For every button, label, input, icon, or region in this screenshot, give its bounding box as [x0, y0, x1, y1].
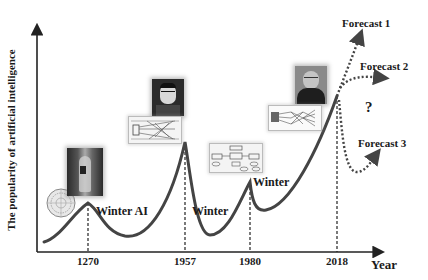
- neural-circuit-diagram: [128, 116, 182, 144]
- winter-label-1957: Winter: [192, 205, 228, 217]
- forecast-2-label: Forecast 2: [360, 61, 408, 72]
- expert-system-flowchart: [209, 143, 263, 173]
- tick-1957: 1957: [174, 256, 196, 267]
- y-axis-label: The popularity of artificial intelligenc…: [6, 49, 17, 230]
- forecast-lines: [337, 33, 385, 172]
- forecast-2-line: [340, 77, 385, 88]
- question-mark: ?: [365, 100, 373, 115]
- ancient-figure-photo: [67, 148, 103, 196]
- forecast-3-label: Forecast 3: [358, 138, 406, 149]
- scientist-portrait-1957-photo: [152, 79, 184, 116]
- tick-2018: 2018: [326, 256, 348, 267]
- forecast-1-label: Forecast 1: [342, 18, 390, 29]
- tick-1270: 1270: [77, 256, 99, 267]
- winter-ai-label: Winter AI: [96, 205, 148, 217]
- scientist-portrait-2018-photo: [295, 66, 327, 104]
- winter-label-1980: Winter: [253, 176, 289, 188]
- tick-1980: 1980: [239, 256, 261, 267]
- x-axis-label: Year: [371, 258, 397, 271]
- deep-network-diagram: [268, 105, 322, 131]
- ai-popularity-diagram: The popularity of artificial intelligenc…: [0, 0, 428, 280]
